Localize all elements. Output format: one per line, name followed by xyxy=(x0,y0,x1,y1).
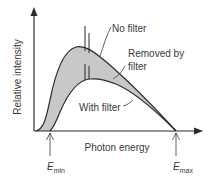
removed-by-filter-label-line2: filter xyxy=(128,61,148,72)
emax-label: Emax xyxy=(173,161,193,174)
emax-marker xyxy=(173,133,180,156)
emin-label: Emin xyxy=(47,161,65,174)
no-filter-leader xyxy=(100,27,111,56)
x-axis xyxy=(34,128,203,135)
y-axis xyxy=(31,7,38,131)
emin-sub: min xyxy=(54,167,65,174)
x-axis-arrow-icon xyxy=(194,128,203,135)
emin-marker xyxy=(47,133,54,156)
filter-spectrum-diagram: Relative intensity Photon energy No filt… xyxy=(0,0,214,184)
y-axis-label: Relative intensity xyxy=(12,39,23,115)
no-filter-label: No filter xyxy=(112,23,147,34)
with-filter-label: With filter xyxy=(79,102,121,113)
with-filter-leader xyxy=(123,100,133,106)
removed-by-filter-label-line1: Removed by xyxy=(128,48,184,59)
x-axis-label: Photon energy xyxy=(84,142,149,153)
emax-sub: max xyxy=(180,167,194,174)
y-axis-arrow-icon xyxy=(31,7,38,16)
